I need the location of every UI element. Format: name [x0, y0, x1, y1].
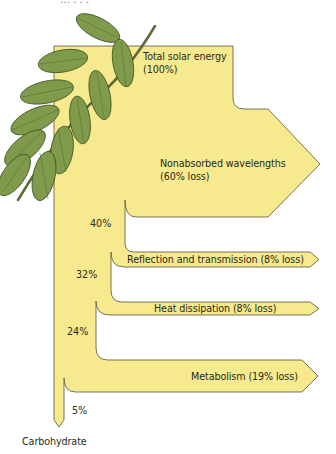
reflection-label: Reflection and transmission (8% loss)	[127, 253, 304, 266]
nonabsorbed-label-line1: Nonabsorbed wavelengths	[160, 157, 286, 170]
pct-24: 24%	[67, 326, 88, 338]
pct-40: 40%	[90, 218, 111, 230]
total-label-line2: (100%)	[143, 63, 227, 76]
nonabsorbed-label-line2: (60% loss)	[160, 170, 286, 183]
heat-label: Heat dissipation (8% loss)	[154, 302, 276, 315]
pct-5: 5%	[72, 405, 87, 417]
total-label-line1: Total solar energy	[143, 50, 227, 63]
carbohydrate-label: Carbohydrate	[22, 435, 87, 448]
total-solar-energy-label: Total solar energy (100%)	[143, 50, 227, 76]
metabolism-label: Metabolism (19% loss)	[191, 370, 298, 383]
nonabsorbed-label: Nonabsorbed wavelengths (60% loss)	[160, 157, 286, 183]
pct-32: 32%	[76, 269, 97, 281]
